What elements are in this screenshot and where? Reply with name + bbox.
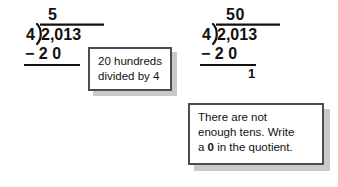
callout-tens-line-1: There are not (198, 110, 315, 125)
subtrahend-step-two: − 2 0 (201, 45, 237, 63)
worksheet-canvas: 5 4 2,013 − 2 0 50 4 2,013 − 2 0 (0, 0, 338, 187)
callout-hundreds-line-2: divided by 4 (98, 69, 163, 84)
divisor-step-one: 4 (26, 26, 35, 44)
remainder-step-two: 1 (248, 66, 255, 81)
callout-tens: There are not enough tens. Write a 0 in … (188, 103, 324, 165)
callout-tens-line-3-pre: a (198, 141, 208, 153)
subtraction-rule-step-one (24, 64, 80, 66)
dividend-step-two: 2,013 (217, 26, 257, 44)
dividend-step-one: 2,013 (41, 26, 81, 44)
callout-hundreds-line-1: 20 hundreds (98, 54, 163, 69)
callout-tens-line-3: a 0 in the quotient. (198, 140, 315, 155)
subtrahend-step-one: − 2 0 (25, 45, 61, 63)
callout-tens-line-2: enough tens. Write (198, 125, 315, 140)
divisor-step-two: 4 (202, 26, 211, 44)
callout-hundreds: 20 hundreds divided by 4 (88, 47, 172, 91)
long-division-step-two: 50 4 2,013 − 2 0 1 (186, 0, 306, 100)
callout-tens-line-3-post: in the quotient. (214, 141, 293, 153)
